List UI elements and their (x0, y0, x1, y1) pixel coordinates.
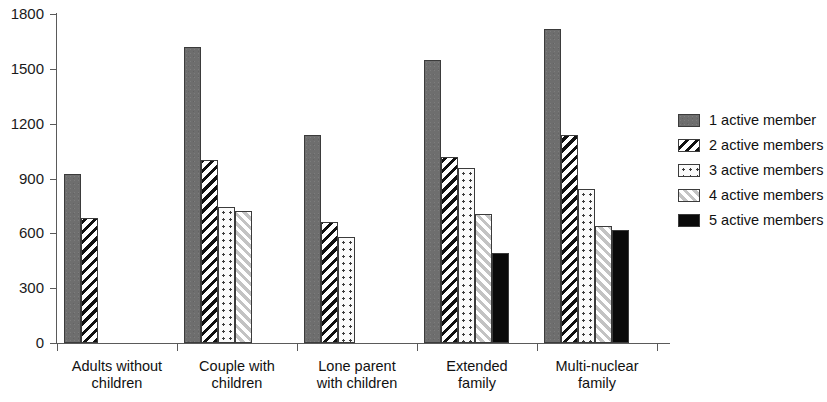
bar (304, 135, 321, 343)
y-axis-tick (50, 14, 57, 15)
x-axis-category-label: Multi-nuclear family (537, 358, 657, 392)
x-axis-tick (57, 344, 58, 351)
bar (578, 189, 595, 343)
y-axis-tick (50, 343, 57, 344)
y-axis-tick-label: 600 (0, 225, 44, 240)
legend-item: 2 active members (678, 133, 827, 158)
y-axis-tick-label: 1800 (0, 6, 44, 21)
plot-area (57, 14, 659, 343)
legend-item: 4 active members (678, 183, 827, 208)
legend-item-label: 1 active member (709, 113, 816, 128)
legend-swatch-icon (678, 114, 700, 127)
legend-item-label: 5 active members (709, 213, 823, 228)
bar (424, 60, 441, 343)
bar (458, 168, 475, 343)
x-axis-tick (657, 344, 658, 351)
y-axis-tick (50, 69, 57, 70)
bar (475, 214, 492, 343)
legend-item-label: 4 active members (709, 188, 823, 203)
x-axis-category-label: Couple with children (177, 358, 297, 392)
bar (441, 157, 458, 343)
x-axis-line (56, 343, 670, 344)
bar (612, 230, 629, 343)
bar (338, 237, 355, 343)
bar (595, 226, 612, 343)
legend-item: 5 active members (678, 208, 827, 233)
x-axis-tick (537, 344, 538, 351)
bar (544, 29, 561, 343)
x-axis-category-label: Lone parent with children (297, 358, 417, 392)
y-axis-tick (50, 124, 57, 125)
bar (321, 222, 338, 343)
legend-item-label: 3 active members (709, 163, 823, 178)
bar (561, 135, 578, 343)
bar (235, 211, 252, 344)
x-axis-category-label: Adults without children (57, 358, 177, 392)
y-axis-tick-label: 0 (0, 335, 44, 350)
chart-legend: 1 active member2 active members3 active … (678, 108, 827, 233)
legend-item: 3 active members (678, 158, 827, 183)
legend-swatch-icon (678, 139, 700, 152)
legend-swatch-icon (678, 189, 700, 202)
y-axis-tick-label: 1500 (0, 61, 44, 76)
x-axis-tick (177, 344, 178, 351)
bar (81, 218, 98, 343)
bar-chart: 0300600900120015001800 Adults without ch… (0, 0, 827, 402)
x-axis-tick (417, 344, 418, 351)
y-axis-tick-label: 900 (0, 171, 44, 186)
y-axis-tick-label: 300 (0, 280, 44, 295)
x-axis-category-label: Extended family (417, 358, 537, 392)
x-axis-tick (297, 344, 298, 351)
y-axis-tick (50, 179, 57, 180)
bar (184, 47, 201, 343)
y-axis-tick (50, 233, 57, 234)
legend-item: 1 active member (678, 108, 827, 133)
bar (492, 253, 509, 343)
y-axis-tick (50, 288, 57, 289)
bar (64, 174, 81, 343)
legend-item-label: 2 active members (709, 138, 823, 153)
bar (218, 207, 235, 343)
bar (201, 160, 218, 343)
legend-swatch-icon (678, 164, 700, 177)
legend-swatch-icon (678, 214, 700, 227)
y-axis-tick-label: 1200 (0, 116, 44, 131)
